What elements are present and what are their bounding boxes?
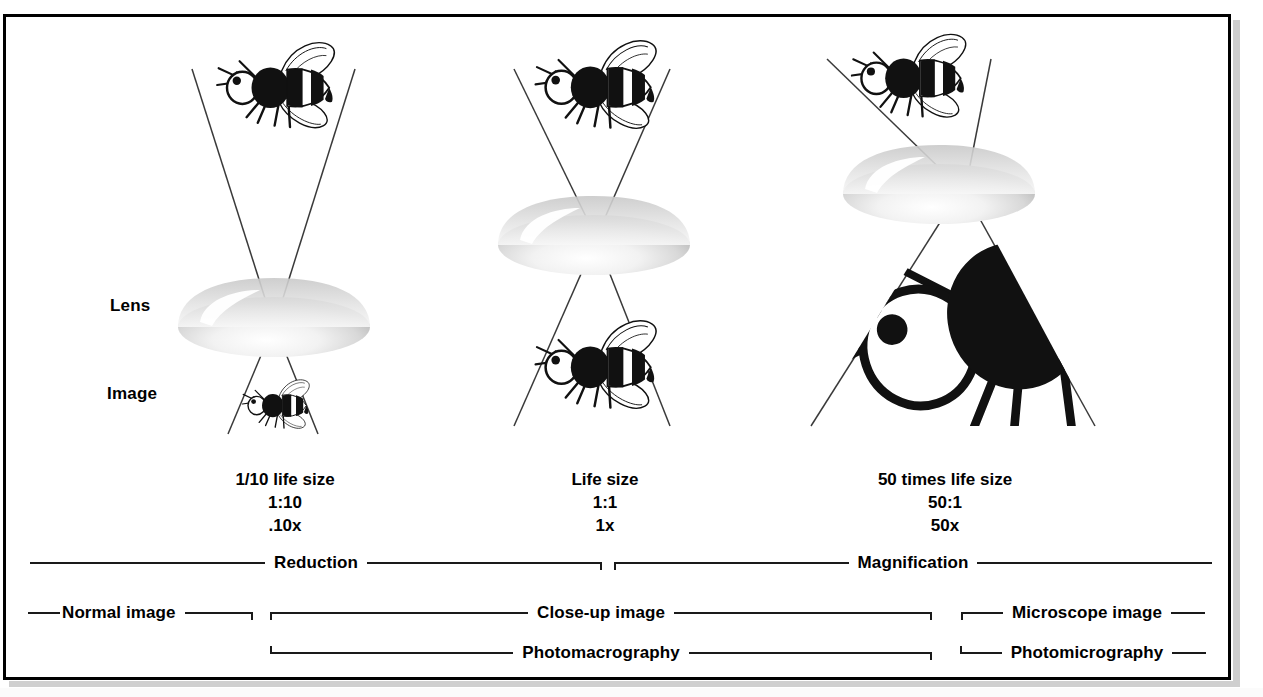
optics-column-magnification bbox=[795, 14, 1135, 464]
bracket-microscope-image: Microscope image bbox=[950, 596, 1216, 630]
caption-ratio: 1:10 bbox=[235, 491, 334, 514]
lens-axis-label: Lens bbox=[110, 296, 150, 316]
bracket-reduction: Reduction bbox=[30, 546, 602, 580]
caption-factor: .10x bbox=[235, 514, 334, 537]
ray-lines bbox=[192, 69, 355, 434]
diagram-page: Lens Image 1/10 life size 1:10 .10x Life… bbox=[0, 0, 1263, 697]
caption-size-text: 1/10 life size bbox=[235, 468, 334, 491]
bracket-photomacrography: Photomacrography bbox=[270, 636, 932, 670]
caption-factor: 1x bbox=[571, 514, 638, 537]
bracket-label-photomacrography: Photomacrography bbox=[513, 643, 688, 663]
caption-ratio: 50:1 bbox=[878, 491, 1012, 514]
lens-icon bbox=[178, 278, 370, 357]
bee-icon-object bbox=[536, 41, 656, 128]
bracket-label-normal-image: Normal image bbox=[60, 603, 185, 623]
bracket-close-up-image: Close-up image bbox=[270, 596, 932, 630]
caption-ratio: 1:1 bbox=[571, 491, 638, 514]
caption-magnification-column: 50 times life size 50:1 50x bbox=[878, 468, 1012, 537]
caption-size-text: 50 times life size bbox=[878, 468, 1012, 491]
bracket-normal-image: Normal image bbox=[28, 596, 253, 630]
bracket-label-microscope-image: Microscope image bbox=[1003, 603, 1171, 623]
frame-shadow-right bbox=[1233, 20, 1240, 686]
image-axis-label: Image bbox=[107, 384, 157, 404]
caption-reduction-column: 1/10 life size 1:10 .10x bbox=[235, 468, 334, 537]
lens-icon bbox=[498, 196, 690, 275]
bee-icon-object bbox=[852, 34, 966, 116]
bracket-row-image-type: Normal image Close-up image Microscope i… bbox=[0, 596, 1263, 630]
bracket-row-scale: Reduction Magnification bbox=[0, 546, 1263, 580]
bracket-label-reduction: Reduction bbox=[265, 553, 367, 573]
bee-icon-image bbox=[536, 321, 656, 408]
bracket-row-photography: Photomacrography Photomicrography bbox=[0, 636, 1263, 670]
frame-shadow-bottom bbox=[9, 681, 1240, 687]
bracket-label-close-up-image: Close-up image bbox=[528, 603, 674, 623]
optics-column-life-size bbox=[470, 14, 760, 464]
optics-column-reduction bbox=[150, 14, 440, 464]
bracket-magnification: Magnification bbox=[614, 546, 1212, 580]
bee-icon-image bbox=[242, 380, 309, 429]
bracket-photomicrography: Photomicrography bbox=[950, 636, 1216, 670]
caption-size-text: Life size bbox=[571, 468, 638, 491]
lens-icon bbox=[843, 145, 1035, 224]
bracket-label-photomicrography: Photomicrography bbox=[1002, 643, 1173, 663]
bracket-label-magnification: Magnification bbox=[849, 553, 978, 573]
bee-icon-object bbox=[217, 43, 334, 128]
caption-factor: 50x bbox=[878, 514, 1012, 537]
caption-life-size-column: Life size 1:1 1x bbox=[571, 468, 638, 537]
page-bottom-strip bbox=[0, 688, 1263, 697]
